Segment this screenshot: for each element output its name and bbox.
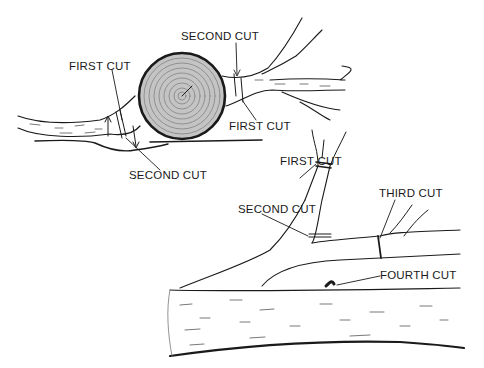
fourth-cut-notch <box>326 282 334 286</box>
label-first-cut-left: FIRST CUT <box>69 61 131 73</box>
label-fourth-cut: FOURTH CUT <box>380 270 457 282</box>
ground-line-log <box>150 140 262 142</box>
up-arrow-left <box>105 116 111 136</box>
first-cut-mark-right <box>241 78 243 102</box>
main-trunk-bark <box>180 300 448 345</box>
second-cut-band <box>309 234 331 237</box>
ground-line-left <box>35 140 168 150</box>
leader-first-cut-right <box>242 100 256 120</box>
main-trunk-left-end <box>168 290 172 356</box>
pruning-illustration <box>0 0 484 368</box>
leader-first-cut-left <box>112 70 122 120</box>
leader-second-cut-top <box>236 43 237 74</box>
label-first-cut: FIRST CUT <box>280 156 342 168</box>
left-branch-bark <box>30 124 102 133</box>
right-branch-bark <box>255 80 330 86</box>
cropped-caption-line <box>0 358 484 368</box>
main-trunk-bottom-edge <box>170 342 464 356</box>
limb-middle-edge <box>312 230 460 243</box>
leader-second-cut-bottom <box>126 138 160 170</box>
leader-third-cut <box>380 200 395 238</box>
third-cut-mark <box>378 236 381 258</box>
label-first-cut-right: FIRST CUT <box>229 121 291 133</box>
label-second-cut-bottom: SECOND CUT <box>129 170 207 182</box>
label-second-cut: SECOND CUT <box>238 204 316 216</box>
leader-fourth-cut <box>337 276 380 285</box>
main-trunk-top-edge <box>170 288 460 291</box>
label-second-cut-top: SECOND CUT <box>181 31 259 43</box>
label-third-cut: THIRD CUT <box>379 188 443 200</box>
